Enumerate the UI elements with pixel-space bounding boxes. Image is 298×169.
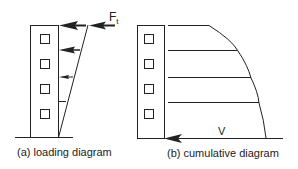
caption-a: (a) loading diagram — [17, 146, 112, 158]
windows-b — [145, 35, 154, 119]
window-icon — [41, 110, 50, 119]
window-icon — [145, 85, 154, 94]
window-icon — [145, 60, 154, 69]
figure-canvas: Ft (a) loading diagram V (b) cumulative … — [0, 0, 298, 169]
base-shear-label: V — [218, 125, 226, 137]
window-icon — [41, 60, 50, 69]
window-icon — [145, 35, 154, 44]
cumulative-shear-curve — [209, 26, 266, 139]
story-force-arrows — [59, 21, 86, 102]
panel-b-cumulative-diagram: V (b) cumulative diagram — [138, 26, 284, 160]
arrow-head-icon — [59, 47, 75, 54]
building-b — [138, 26, 165, 139]
loading-diagram-figure: Ft (a) loading diagram V (b) cumulative … — [0, 0, 298, 169]
window-icon — [41, 35, 50, 44]
top-force-ft: Ft — [89, 10, 119, 30]
panel-a-loading-diagram: Ft (a) loading diagram — [15, 10, 119, 158]
window-icon — [145, 110, 154, 119]
caption-b: (b) cumulative diagram — [167, 147, 279, 159]
load-envelope-line — [59, 25, 89, 138]
window-icon — [41, 85, 50, 94]
building-a — [31, 26, 59, 138]
ft-label: Ft — [109, 10, 119, 26]
windows-a — [41, 35, 50, 119]
arrow-head-icon — [59, 75, 69, 79]
